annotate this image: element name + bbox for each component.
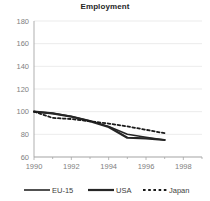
series-line-japan xyxy=(34,112,165,134)
y-tick-label: 180 xyxy=(16,17,29,26)
y-tick-label: 140 xyxy=(16,62,29,71)
legend-label-eu-15: EU-15 xyxy=(52,186,73,195)
chart-legend: EU-15USAJapan xyxy=(24,186,189,195)
legend-label-japan: Japan xyxy=(169,186,189,195)
x-tick-label: 1992 xyxy=(63,162,80,171)
x-tick-label: 1990 xyxy=(26,162,43,171)
y-tick-label: 160 xyxy=(16,39,29,48)
series-line-eu-15 xyxy=(34,112,165,140)
y-tick-label: 80 xyxy=(21,130,29,139)
series-line-usa xyxy=(34,112,165,140)
x-tick-label: 1996 xyxy=(138,162,155,171)
x-axis-tick-labels: 19901992199419961998 xyxy=(26,162,192,171)
data-series-group xyxy=(34,112,165,140)
y-tick-label: 120 xyxy=(16,85,29,94)
y-axis-tick-labels: 6080100120140160180 xyxy=(16,17,29,162)
chart-svg: 6080100120140160180 19901992199419961998… xyxy=(0,0,210,201)
x-tick-label: 1994 xyxy=(100,162,117,171)
employment-chart: Employment 6080100120140160180 199019921… xyxy=(0,0,210,201)
x-tick-label: 1998 xyxy=(175,162,192,171)
legend-label-usa: USA xyxy=(116,186,131,195)
gridlines-group xyxy=(34,21,202,157)
y-tick-label: 100 xyxy=(16,107,29,116)
y-tick-label: 60 xyxy=(21,153,29,162)
